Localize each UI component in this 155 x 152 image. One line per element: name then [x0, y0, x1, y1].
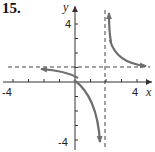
y-tick-label-neg4: -4 — [58, 136, 68, 148]
right-branch-curve — [110, 40, 146, 66]
x-axis-label: x — [145, 85, 152, 99]
y-tick-label-4: 4 — [65, 18, 71, 30]
y-axis-label: y — [62, 0, 69, 14]
left-branch-curve — [41, 69, 78, 78]
x-tick-label-neg4: -4 — [2, 86, 12, 98]
right-branch-curve-upper — [109, 13, 111, 42]
graph: y x -4 4 4 -4 — [0, 0, 155, 152]
x-tick-label-4: 4 — [132, 86, 138, 98]
